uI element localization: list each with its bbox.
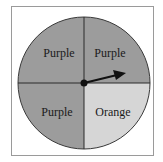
pivot-dot <box>81 80 88 87</box>
section-label-bottom-right: Orange <box>95 105 130 119</box>
spinner: Purple Purple Purple Orange <box>0 0 163 162</box>
section-label-top-left: Purple <box>43 46 74 60</box>
section-label-bottom-left: Purple <box>41 105 72 119</box>
section-label-top-right: Purple <box>94 46 125 60</box>
